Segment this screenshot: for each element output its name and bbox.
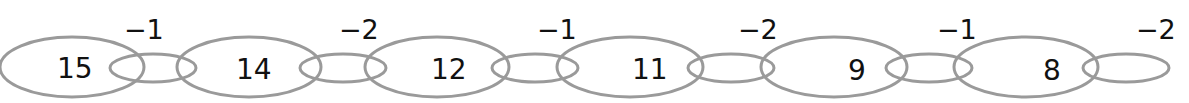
link-ellipse-2 [300, 54, 386, 82]
number-label-5: 9 [848, 54, 866, 87]
number-label-4: 11 [632, 53, 668, 86]
step-label-3: −1 [537, 14, 577, 45]
number-ellipse-6 [954, 37, 1098, 97]
number-label-2: 14 [236, 53, 272, 86]
step-label-4: −2 [738, 14, 778, 45]
number-chain-diagram: 15 14 12 11 9 8 −1 −2 −1 −2 −1 −2 [0, 0, 1189, 103]
step-label-1: −1 [124, 14, 164, 45]
link-ellipse-6 [1083, 54, 1169, 82]
number-label-3: 12 [431, 53, 467, 86]
number-label-1: 15 [57, 52, 93, 85]
link-ellipse-5 [886, 54, 972, 82]
step-label-2: −2 [339, 14, 379, 45]
step-label-5: −1 [937, 14, 977, 45]
link-ellipse-1 [110, 54, 196, 82]
number-label-6: 8 [1043, 54, 1061, 87]
step-label-6: −2 [1136, 14, 1176, 45]
link-ellipse-3 [492, 54, 578, 82]
